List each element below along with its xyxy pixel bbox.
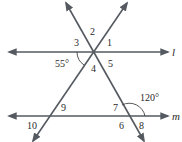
angle-label-6: 6 xyxy=(119,120,124,131)
diagram-canvas: l m 1 2 3 4 5 6 7 8 9 10 55° 120° xyxy=(0,0,182,142)
angle-arc-55 xyxy=(77,52,84,65)
angle-label-9: 9 xyxy=(61,102,66,113)
angle-label-7: 7 xyxy=(113,102,118,113)
angle-label-2: 2 xyxy=(90,26,95,37)
angle-label-8: 8 xyxy=(139,120,144,131)
angle-label-5: 5 xyxy=(108,58,113,69)
line-label-l: l xyxy=(172,46,175,58)
angle-label-10: 10 xyxy=(27,120,37,131)
angle-label-4: 4 xyxy=(91,63,96,74)
angle-measure-120: 120° xyxy=(140,92,159,103)
angle-label-1: 1 xyxy=(107,37,112,48)
transversal-left xyxy=(33,3,127,141)
transversal-right xyxy=(66,3,144,141)
angle-label-3: 3 xyxy=(74,37,79,48)
angle-measure-55: 55° xyxy=(55,58,69,69)
line-label-m: m xyxy=(172,110,180,122)
